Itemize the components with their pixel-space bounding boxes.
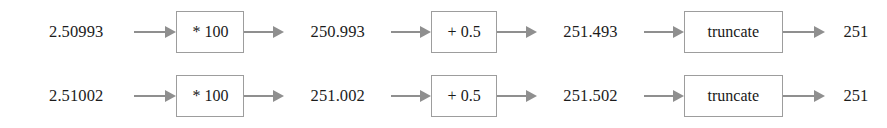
operation-box-add: + 0.5 [431,11,497,53]
arrow-right-icon [134,26,176,38]
arrow-right-icon [783,26,825,38]
operation-box-multiply: * 100 [176,75,244,117]
arrow-shaft [497,95,527,97]
arrow-shaft [783,31,815,33]
arrow-shaft [644,31,674,33]
arrow-head [165,26,176,38]
operation-box-truncate: truncate [684,75,783,117]
arrow-head [420,90,431,102]
arrow-shaft [497,31,527,33]
arrow-shaft [244,95,274,97]
arrow-head [420,26,431,38]
arrow-right-icon [244,26,284,38]
arrow-right-icon [244,90,284,102]
pipeline-row: 2.50993 * 100 250.993 + 0.5 251.493 trun… [0,0,887,64]
intermediate-value-2: 251.502 [537,88,644,105]
arrow-right-icon [391,26,431,38]
arrow-head [673,26,684,38]
intermediate-value-2: 251.493 [537,24,644,41]
arrow-head [526,26,537,38]
input-value: 2.50993 [18,24,134,41]
arrow-shaft [134,31,166,33]
arrow-right-icon [134,90,176,102]
arrow-right-icon [497,90,537,102]
arrow-shaft [134,95,166,97]
intermediate-value-1: 251.002 [284,88,391,105]
arrow-head [526,90,537,102]
operation-box-multiply: * 100 [176,11,244,53]
arrow-right-icon [497,26,537,38]
arrow-shaft [783,95,815,97]
arrow-shaft [391,31,421,33]
arrow-head [273,26,284,38]
arrow-head [814,26,825,38]
arrow-head [814,90,825,102]
arrow-right-icon [644,26,684,38]
output-value: 251 [825,88,887,105]
pipeline-row: 2.51002 * 100 251.002 + 0.5 251.502 trun… [0,64,887,128]
arrow-shaft [644,95,674,97]
arrow-head [165,90,176,102]
arrow-shaft [244,31,274,33]
arrow-head [673,90,684,102]
rounding-pipeline-diagram: 2.50993 * 100 250.993 + 0.5 251.493 trun… [0,0,887,128]
arrow-head [273,90,284,102]
operation-box-add: + 0.5 [431,75,497,117]
arrow-right-icon [644,90,684,102]
arrow-right-icon [783,90,825,102]
arrow-shaft [391,95,421,97]
arrow-right-icon [391,90,431,102]
input-value: 2.51002 [18,88,134,105]
intermediate-value-1: 250.993 [284,24,391,41]
output-value: 251 [825,24,887,41]
operation-box-truncate: truncate [684,11,783,53]
